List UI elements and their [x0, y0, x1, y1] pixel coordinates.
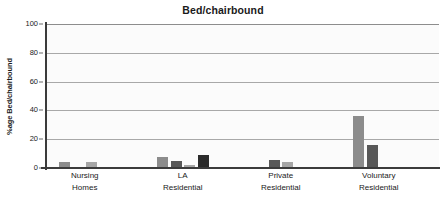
x-category-label-line2: Residential — [359, 182, 399, 194]
bar-chart: Bed/chairbound %age Bed/chairbound 02040… — [0, 0, 446, 199]
x-category-label-line1: Private — [268, 171, 293, 180]
gridline-100 — [47, 24, 439, 25]
bar — [367, 145, 378, 168]
x-category-label: NursingHomes — [71, 170, 99, 193]
x-category-label-line2: Residential — [163, 182, 203, 194]
gridline-60 — [47, 82, 439, 83]
gridline-20 — [47, 139, 439, 140]
x-category-label-line1: Voluntary — [362, 171, 395, 180]
x-category-label-line2: Homes — [71, 182, 99, 194]
y-axis-label-text: %age Bed/chairbound — [5, 58, 14, 135]
chart-title: Bed/chairbound — [0, 4, 446, 16]
y-axis-tick-labels: 020406080100 — [16, 19, 43, 173]
gridline-40 — [47, 110, 439, 111]
x-category-label: PrivateResidential — [261, 170, 301, 193]
y-tick-label-100: 100 — [16, 20, 38, 28]
y-tick-mark-100 — [39, 24, 43, 25]
y-tick-label-40: 40 — [16, 107, 38, 115]
gridline-80 — [47, 53, 439, 54]
y-tick-label-60: 60 — [16, 78, 38, 86]
x-category-label: LAResidential — [163, 170, 203, 193]
y-tick-mark-20 — [39, 139, 43, 140]
y-axis-label: %age Bed/chairbound — [2, 24, 16, 168]
x-axis-category-labels: NursingHomesLAResidentialPrivateResident… — [47, 170, 439, 199]
x-axis-line — [41, 167, 440, 169]
x-category-label-line2: Residential — [261, 182, 301, 194]
plot-area — [47, 24, 439, 168]
y-tick-mark-80 — [39, 52, 43, 53]
y-tick-label-0: 0 — [16, 164, 38, 172]
x-category-label-line1: LA — [178, 171, 188, 180]
y-tick-label-80: 80 — [16, 49, 38, 57]
x-category-label-line1: Nursing — [71, 171, 99, 180]
y-tick-mark-40 — [39, 110, 43, 111]
y-tick-mark-60 — [39, 81, 43, 82]
x-category-label: VoluntaryResidential — [359, 170, 399, 193]
y-tick-label-20: 20 — [16, 135, 38, 143]
bar — [353, 116, 364, 168]
